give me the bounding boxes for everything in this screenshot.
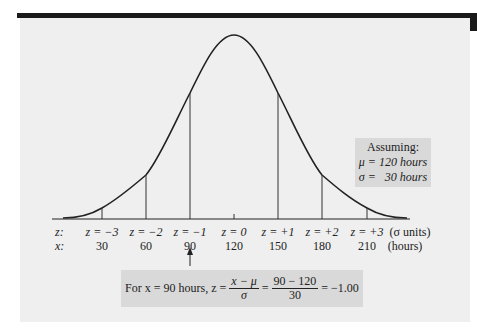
- x-row-label: x:: [55, 239, 64, 254]
- z-label: z = −1: [174, 225, 207, 240]
- z-label: z = −3: [86, 225, 119, 240]
- assumption-title: Assuming:: [355, 140, 431, 155]
- x-label: 90: [184, 239, 196, 254]
- z-row-label: z:: [55, 225, 64, 240]
- x-label: 30: [96, 239, 108, 254]
- equals-sign: =: [262, 281, 269, 296]
- x-label: 60: [140, 239, 152, 254]
- z-unit-label: (σ units): [390, 225, 431, 240]
- assumption-box: Assuming: μ = 120 hours σ = 30 hours: [355, 138, 431, 187]
- formula-result: = −1.00: [321, 281, 359, 296]
- fraction-symbolic: x − μ σ: [229, 275, 258, 302]
- fraction-denominator: σ: [241, 289, 247, 302]
- x-unit-label: (hours): [388, 239, 423, 254]
- x-label: 120: [225, 239, 243, 254]
- formula-box: For x = 90 hours, z = x − μ σ = 90 − 120…: [121, 270, 363, 307]
- z-label: z = +3: [351, 225, 384, 240]
- fraction-numeric: 90 − 120 30: [272, 275, 319, 302]
- x-label: 150: [269, 239, 287, 254]
- fraction-denominator: 30: [289, 289, 301, 302]
- fraction-numerator: 90 − 120: [272, 275, 319, 289]
- assumption-sigma: σ = 30 hours: [355, 170, 431, 185]
- z-label: z = 0: [222, 225, 247, 240]
- z-label: z = −2: [130, 225, 163, 240]
- x-label: 210: [358, 239, 376, 254]
- x-label: 180: [313, 239, 331, 254]
- bell-curve: [63, 35, 407, 218]
- z-label: z = +1: [262, 225, 295, 240]
- formula-prefix: For x = 90 hours, z =: [125, 281, 226, 296]
- z-label: z = +2: [306, 225, 339, 240]
- fraction-numerator: x − μ: [229, 275, 258, 289]
- assumption-mu: μ = 120 hours: [355, 155, 431, 170]
